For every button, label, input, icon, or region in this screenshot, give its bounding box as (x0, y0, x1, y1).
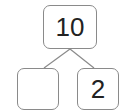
part-right-box: 2 (77, 68, 119, 110)
part-left-box[interactable] (17, 68, 59, 110)
whole-box: 10 (43, 5, 97, 49)
